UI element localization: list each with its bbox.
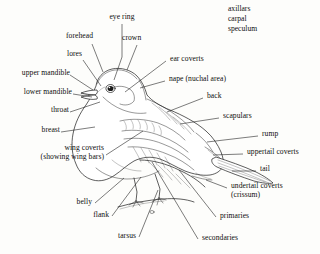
label-breast: breast [16,125,60,134]
label-lores: lores [36,49,82,58]
label-layer: eye ring forehead crown lores ear covert… [0,0,320,254]
label-forehead: forehead [38,31,93,40]
label-wing-coverts-line2: (showing wing bars) [1,152,104,161]
unlabeled-terms-block: axillars carpal speculum [228,4,257,35]
label-scapulars: scapulars [223,111,279,120]
label-crown: crown [122,33,162,42]
label-uppertail-coverts: uppertail coverts [247,147,319,156]
label-upper-mandible: upper mandible [0,68,70,77]
label-wing-coverts-line1: wing coverts [6,143,104,152]
label-belly: belly [52,197,92,206]
label-back: back [207,91,241,100]
label-primaries: primaries [220,211,276,220]
label-lower-mandible: lower mandible [0,87,72,96]
label-throat: throat [24,105,69,114]
label-tarsus: tarsus [92,231,136,240]
label-tail: tail [260,164,286,173]
label-nape: nape (nuchal area) [169,74,273,83]
label-flank: flank [68,210,109,219]
label-rump: rump [262,129,298,138]
bird-topography-diagram: eye ring forehead crown lores ear covert… [0,0,320,254]
free-term-speculum: speculum [228,24,257,34]
label-undertail-coverts-line2: (crissum) [231,190,291,199]
free-term-axillars: axillars [228,4,257,14]
label-ear-coverts: ear coverts [170,54,240,63]
label-secondaries: secondaries [202,233,270,242]
label-undertail-coverts-line1: undertail coverts [231,181,317,190]
label-eye-ring: eye ring [99,12,145,21]
free-term-carpal: carpal [228,14,257,24]
